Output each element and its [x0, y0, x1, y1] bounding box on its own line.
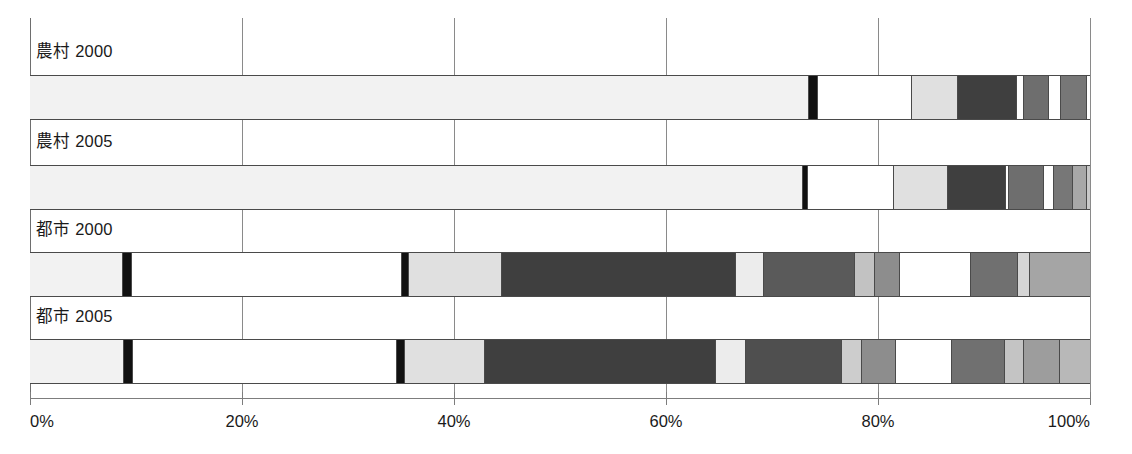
bar-segment[interactable] — [1048, 76, 1061, 119]
plot-area: 農村 2000農村 2005都市 2000都市 2005 — [30, 18, 1090, 398]
stacked-bar-row[interactable] — [30, 339, 1090, 384]
bar-segment[interactable] — [951, 340, 1004, 383]
bar-segment[interactable] — [970, 253, 1017, 296]
x-tick-label-0: 0% — [30, 412, 54, 431]
bar-segment[interactable] — [895, 340, 951, 383]
bar-segment[interactable] — [874, 253, 899, 296]
bar-segment[interactable] — [715, 340, 746, 383]
bar-segment[interactable] — [1059, 340, 1090, 383]
x-axis-line — [30, 398, 1091, 399]
bar-segment[interactable] — [841, 340, 861, 383]
x-tick-label-40: 40% — [437, 412, 470, 431]
bar-segment[interactable] — [30, 166, 802, 209]
bar-segment[interactable] — [501, 253, 735, 296]
bar-segment[interactable] — [1043, 166, 1053, 209]
bar-segment[interactable] — [408, 253, 500, 296]
x-tick-80 — [878, 392, 879, 405]
bar-segment[interactable] — [1023, 340, 1059, 383]
x-tick-20 — [242, 392, 243, 405]
bar-segment[interactable] — [132, 340, 396, 383]
bar-segment[interactable] — [396, 340, 404, 383]
bar-segment[interactable] — [807, 166, 893, 209]
bar-segment[interactable] — [893, 166, 947, 209]
stacked-bar-row[interactable] — [30, 252, 1090, 297]
bar-segment[interactable] — [30, 340, 123, 383]
bar-segment[interactable] — [30, 76, 808, 119]
bar-segment[interactable] — [763, 253, 853, 296]
x-tick-100 — [1090, 392, 1091, 405]
bar-segment[interactable] — [1008, 166, 1043, 209]
bar-segment[interactable] — [1004, 340, 1023, 383]
bar-segment[interactable] — [1053, 166, 1072, 209]
bar-segment[interactable] — [735, 253, 764, 296]
stacked-bar-chart: 農村 2000農村 2005都市 2000都市 2005 0%20%40%60%… — [0, 0, 1132, 454]
x-tick-label-100: 100% — [1048, 412, 1090, 431]
bar-segment[interactable] — [947, 166, 1005, 209]
row-label-0: 農村 2000 — [36, 38, 113, 62]
x-tick-40 — [454, 392, 455, 405]
bar-segment[interactable] — [911, 76, 958, 119]
row-label-1: 農村 2005 — [36, 128, 113, 152]
bar-segment[interactable] — [1086, 166, 1090, 209]
row-label-2: 都市 2000 — [36, 216, 113, 240]
bar-segment[interactable] — [1023, 76, 1047, 119]
gridline-100pct — [1090, 18, 1091, 398]
bar-segment[interactable] — [404, 340, 484, 383]
bar-segment[interactable] — [1017, 253, 1030, 296]
bar-segment[interactable] — [401, 253, 408, 296]
bar-segment[interactable] — [854, 253, 874, 296]
bar-segment[interactable] — [817, 76, 911, 119]
bar-segment[interactable] — [30, 253, 122, 296]
bar-segment[interactable] — [484, 340, 715, 383]
x-tick-60 — [666, 392, 667, 405]
x-tick-label-20: 20% — [225, 412, 258, 431]
stacked-bar-row[interactable] — [30, 165, 1090, 210]
bar-segment[interactable] — [1072, 166, 1086, 209]
bar-segment[interactable] — [899, 253, 970, 296]
bar-segment[interactable] — [123, 340, 131, 383]
x-tick-0 — [30, 392, 31, 405]
bar-segment[interactable] — [1060, 76, 1085, 119]
bar-segment[interactable] — [131, 253, 401, 296]
bar-segment[interactable] — [957, 76, 1015, 119]
x-tick-label-80: 80% — [861, 412, 894, 431]
bar-segment[interactable] — [1016, 76, 1023, 119]
bar-segment[interactable] — [122, 253, 130, 296]
stacked-bar-row[interactable] — [30, 75, 1090, 120]
row-label-3: 都市 2005 — [36, 303, 113, 327]
bar-segment[interactable] — [745, 340, 840, 383]
bar-segment[interactable] — [808, 76, 816, 119]
bar-segment[interactable] — [861, 340, 895, 383]
x-tick-label-60: 60% — [649, 412, 682, 431]
bar-segment[interactable] — [1029, 253, 1089, 296]
